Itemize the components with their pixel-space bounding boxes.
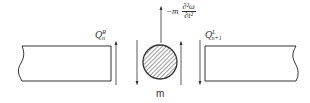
right-shear-subscript: n+1 [212, 35, 222, 41]
right-shear-label: QLn+1 [205, 30, 222, 40]
diagram-canvas: QRn QLn+1 −m ∂²ω ∂t² m [0, 0, 310, 103]
inertia-force-label: −m ∂²ω ∂t² [166, 3, 196, 20]
inertia-prefix: −m [166, 7, 179, 16]
left-shear-subscript: n [102, 35, 105, 41]
inertia-fraction: ∂²ω ∂t² [182, 3, 196, 20]
diagram-graphics [0, 0, 310, 103]
lumped-mass-circle [143, 45, 177, 79]
left-shear-label: QRn [95, 30, 105, 40]
mass-label: m [156, 88, 164, 99]
right-beam-segment [205, 46, 298, 81]
inertia-denominator: ∂t² [183, 12, 194, 20]
left-beam-segment [18, 46, 111, 81]
